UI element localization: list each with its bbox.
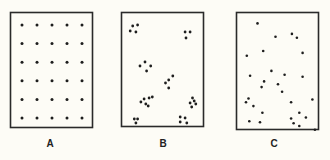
panel-a-points — [21, 24, 84, 120]
point-c-16 — [245, 101, 248, 104]
point-b-18 — [140, 101, 143, 104]
point-c-24 — [292, 122, 295, 125]
point-b-13 — [164, 82, 167, 85]
point-c-6 — [301, 52, 304, 55]
point-a-28 — [66, 117, 69, 120]
point-b-30 — [184, 117, 187, 120]
point-c-9 — [301, 75, 304, 78]
point-c-26 — [248, 120, 251, 123]
point-a-27 — [51, 117, 54, 120]
point-c-2 — [291, 33, 294, 36]
point-a-9 — [81, 42, 84, 45]
point-a-17 — [51, 79, 54, 82]
point-a-3 — [66, 24, 69, 27]
point-a-18 — [66, 79, 69, 82]
point-b-7 — [145, 70, 148, 73]
point-b-1 — [136, 24, 139, 27]
point-c-21 — [298, 112, 301, 115]
point-a-8 — [66, 42, 69, 45]
point-b-28 — [135, 122, 138, 125]
point-a-25 — [21, 117, 24, 120]
point-c-5 — [262, 50, 265, 53]
panel-c: C — [237, 13, 319, 150]
point-c-22 — [305, 116, 308, 119]
point-c-27 — [259, 121, 262, 124]
point-c-20 — [261, 112, 264, 115]
point-b-12 — [171, 75, 174, 78]
point-a-4 — [81, 24, 84, 27]
point-c-19 — [252, 105, 255, 108]
panel-b-frame — [122, 13, 204, 127]
panel-a-frame — [11, 13, 93, 128]
point-c-23 — [290, 117, 293, 120]
point-c-1 — [274, 36, 277, 39]
point-c-13 — [277, 83, 280, 86]
panel-c-points — [245, 22, 317, 131]
point-a-7 — [51, 42, 54, 45]
point-b-15 — [143, 98, 146, 101]
point-b-14 — [167, 87, 170, 90]
point-a-5 — [21, 42, 24, 45]
panel-a-label: A — [46, 138, 53, 149]
point-b-21 — [191, 97, 194, 100]
panel-b-label: B — [159, 138, 166, 149]
point-c-3 — [296, 36, 299, 39]
point-a-12 — [51, 61, 54, 64]
point-c-11 — [263, 80, 266, 83]
dispersion-figure: A B C — [0, 0, 330, 160]
point-a-21 — [36, 98, 39, 101]
point-b-26 — [133, 118, 136, 121]
point-b-4 — [184, 31, 187, 34]
point-b-22 — [193, 100, 196, 103]
panel-b: B — [122, 13, 204, 150]
point-b-23 — [189, 102, 192, 105]
point-c-12 — [260, 86, 263, 89]
point-c-0 — [256, 22, 259, 25]
point-b-24 — [194, 103, 197, 106]
point-a-23 — [66, 98, 69, 101]
point-a-13 — [66, 61, 69, 64]
point-b-9 — [149, 65, 152, 68]
point-a-16 — [36, 79, 39, 82]
point-a-20 — [21, 98, 24, 101]
point-b-8 — [139, 65, 142, 68]
point-c-4 — [246, 55, 249, 58]
point-a-15 — [21, 79, 24, 82]
panel-c-frame — [237, 13, 319, 130]
point-b-20 — [147, 105, 150, 108]
point-c-28 — [314, 129, 317, 132]
point-a-1 — [36, 24, 39, 27]
point-b-29 — [179, 116, 182, 119]
point-a-29 — [81, 117, 84, 120]
point-c-25 — [298, 125, 301, 128]
point-b-5 — [189, 31, 192, 34]
point-b-0 — [131, 25, 134, 28]
point-b-2 — [129, 30, 132, 33]
point-b-6 — [185, 37, 188, 40]
point-b-11 — [167, 79, 170, 82]
point-a-26 — [36, 117, 39, 120]
point-a-22 — [51, 98, 54, 101]
point-b-3 — [135, 31, 138, 34]
point-b-32 — [185, 122, 188, 125]
point-b-10 — [144, 61, 147, 64]
point-a-11 — [36, 61, 39, 64]
point-c-7 — [270, 70, 273, 73]
point-b-31 — [179, 121, 182, 124]
point-a-24 — [81, 98, 84, 101]
point-c-15 — [247, 97, 250, 100]
panel-b-points — [129, 24, 197, 125]
point-a-0 — [21, 24, 24, 27]
panel-a: A — [11, 13, 93, 150]
point-c-8 — [283, 74, 286, 77]
point-b-17 — [151, 96, 154, 99]
panel-c-label: C — [270, 138, 277, 149]
point-c-10 — [249, 74, 252, 77]
point-a-19 — [81, 79, 84, 82]
point-c-18 — [311, 98, 314, 101]
point-a-2 — [51, 24, 54, 27]
point-c-14 — [281, 91, 284, 94]
point-b-27 — [136, 118, 139, 121]
point-b-16 — [148, 97, 151, 100]
point-b-25 — [190, 106, 193, 109]
